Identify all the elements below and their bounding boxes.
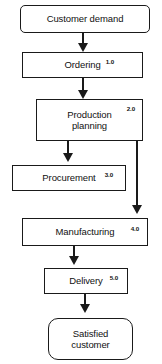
node-satisfied-customer: Satisfied customer [48, 318, 133, 360]
connector-line-ordering-to-production [82, 78, 84, 90]
node-label: Ordering [64, 59, 100, 71]
node-label: Delivery [69, 275, 103, 287]
node-code-badge: 2.0 [127, 105, 135, 112]
node-code-badge: 1.0 [106, 58, 114, 65]
down-arrow-icon [78, 43, 88, 52]
node-label: Production planning [67, 109, 111, 132]
node-manufacturing: Manufacturing 4.0 [22, 218, 148, 246]
node-production-planning: Production planning 2.0 [36, 99, 143, 141]
down-arrow-icon [132, 205, 142, 214]
node-code-badge: 3.0 [105, 171, 113, 178]
down-arrow-icon [63, 153, 73, 162]
flowchart-canvas: Customer demand Ordering 1.0 Production … [0, 0, 162, 364]
node-label: Procurement [42, 172, 95, 184]
node-label: Customer demand [47, 13, 124, 25]
node-customer-demand: Customer demand [20, 5, 150, 33]
node-code-badge: 4.0 [131, 225, 139, 232]
connector-line-production-to-manufacturing [136, 141, 138, 206]
node-label: Manufacturing [56, 226, 115, 238]
down-arrow-icon [78, 90, 88, 99]
node-code-badge: 5.0 [110, 274, 118, 281]
node-delivery: Delivery 5.0 [44, 268, 128, 294]
down-arrow-icon [80, 304, 90, 313]
down-arrow-icon [69, 256, 79, 265]
node-procurement: Procurement 3.0 [12, 165, 126, 191]
node-label: Satisfied customer [71, 328, 109, 351]
node-ordering: Ordering 1.0 [22, 52, 143, 78]
